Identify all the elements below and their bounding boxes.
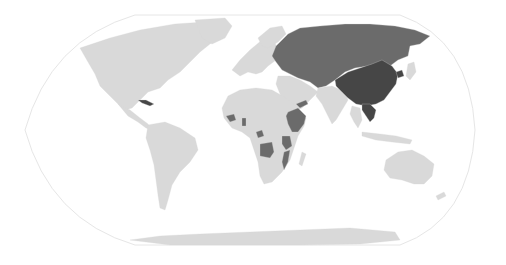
world-map [0, 0, 506, 265]
region-benin [242, 118, 246, 126]
